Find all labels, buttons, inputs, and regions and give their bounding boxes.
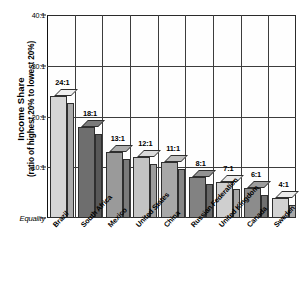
x-axis-category-label: China (162, 209, 182, 229)
x-axis-category-label: Sweden (272, 203, 297, 229)
x-axis-category-labels: BrazilSouth AfricaMexicoUnited StatesChi… (0, 0, 307, 299)
x-axis-category-label: Russian Federation (189, 175, 240, 229)
x-axis-category-label: Brazil (51, 209, 71, 229)
x-axis-category-label: Canada (245, 204, 269, 229)
x-axis-category-label: Mexico (106, 206, 129, 230)
income-share-bar-chart: Income Share (ratio of highest 20% to lo… (0, 0, 307, 299)
